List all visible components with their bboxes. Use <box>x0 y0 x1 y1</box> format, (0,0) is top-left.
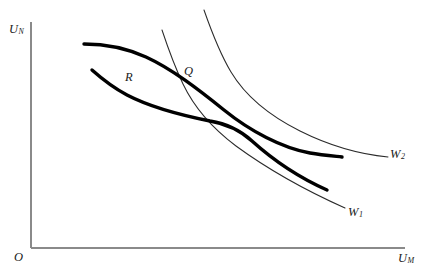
x-axis-label-text: U <box>398 251 407 265</box>
plot-canvas <box>0 0 425 280</box>
welfare-curve-w1-label-text: W <box>348 205 358 219</box>
welfare-curve-w2 <box>204 10 388 157</box>
y-axis-label: UN <box>9 23 24 36</box>
x-axis-label: UM <box>398 252 414 265</box>
origin-label: O <box>14 251 23 264</box>
welfare-curve-w1 <box>162 30 345 208</box>
welfare-curve-w1-label-subscript: 1 <box>358 210 363 219</box>
utility-possibility-frontier-figure: UN UM O W2 W1 Q R <box>0 0 425 280</box>
x-axis-label-subscript: M <box>407 256 414 265</box>
point-label-r: R <box>125 71 133 84</box>
frontier-curve-upper <box>84 44 342 157</box>
frontier-curve-lower <box>92 70 327 190</box>
welfare-curve-w1-label: W1 <box>348 206 363 219</box>
welfare-curve-w2-label: W2 <box>390 148 405 161</box>
point-label-q: Q <box>184 65 193 78</box>
y-axis-label-text: U <box>9 22 18 36</box>
welfare-curve-w2-label-text: W <box>390 147 400 161</box>
y-axis-label-subscript: N <box>18 27 24 36</box>
welfare-curve-w2-label-subscript: 2 <box>400 152 405 161</box>
